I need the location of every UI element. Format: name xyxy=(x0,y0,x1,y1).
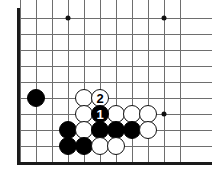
move-number-label: 2 xyxy=(96,92,103,105)
go-board-diagram: 21 xyxy=(0,0,212,180)
stone-white[interactable] xyxy=(139,121,157,139)
grid-line-horizontal-4 xyxy=(17,82,212,83)
star-point-top-right xyxy=(162,16,167,21)
grid-line-horizontal-0 xyxy=(17,18,212,19)
grid-line-horizontal-1 xyxy=(17,34,212,35)
star-point-right xyxy=(162,112,167,117)
grid-line-horizontal-2 xyxy=(17,50,212,51)
board-edge-bottom xyxy=(17,162,212,165)
board-edge-left xyxy=(17,8,20,165)
move-number-label: 1 xyxy=(96,108,103,121)
grid-line-horizontal-5 xyxy=(17,98,212,99)
stone-black[interactable] xyxy=(27,89,45,107)
grid-line-horizontal-3 xyxy=(17,66,212,67)
stone-white[interactable] xyxy=(107,137,125,155)
star-point-top-left xyxy=(66,16,71,21)
move-stone-1[interactable]: 1 xyxy=(91,105,109,123)
